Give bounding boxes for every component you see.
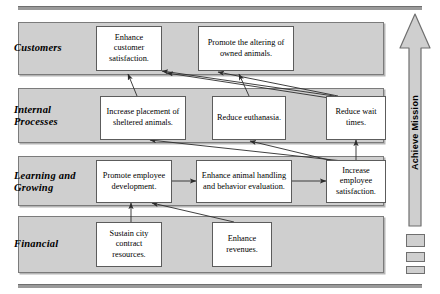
- objective-reduce-euthanasia[interactable]: Reduce euthanasia.: [212, 96, 286, 140]
- objective-promote-employee-development[interactable]: Promote employee development.: [96, 160, 172, 203]
- objective-increase-employee-satisfaction[interactable]: Increase employee satisfaction.: [326, 160, 386, 203]
- mission-step-box-2: [406, 252, 425, 262]
- objective-reduce-wait-times[interactable]: Reduce wait times.: [326, 96, 386, 140]
- band-label-internal-processes: Internal Processes: [14, 104, 58, 127]
- band-label-learning-growing: Learning and Growing: [14, 170, 76, 193]
- top-divider-rule: [18, 6, 422, 10]
- mission-step-box-3: [406, 266, 425, 274]
- mission-step-box-1: [406, 234, 425, 247]
- strategy-map-canvas: Customers Internal Processes Learning an…: [0, 0, 440, 294]
- band-label-financial: Financial: [14, 238, 58, 250]
- band-financial: [18, 216, 384, 273]
- bottom-divider-rule: [18, 284, 422, 288]
- objective-enhance-animal-handling[interactable]: Enhance animal handling and behavior eva…: [196, 160, 292, 203]
- objective-enhance-revenues[interactable]: Enhance revenues.: [212, 222, 272, 267]
- objective-promote-altering-owned-animals[interactable]: Promote the altering of owned animals.: [198, 26, 294, 71]
- band-label-customers: Customers: [14, 42, 62, 54]
- achieve-mission-arrow: [398, 12, 432, 228]
- objective-increase-placement-sheltered-animals[interactable]: Increase placement of sheltered animals.: [100, 96, 186, 140]
- objective-enhance-customer-satisfaction[interactable]: Enhance customer satisfaction.: [96, 26, 162, 71]
- objective-sustain-city-contract-resources[interactable]: Sustain city contract resources.: [96, 222, 162, 267]
